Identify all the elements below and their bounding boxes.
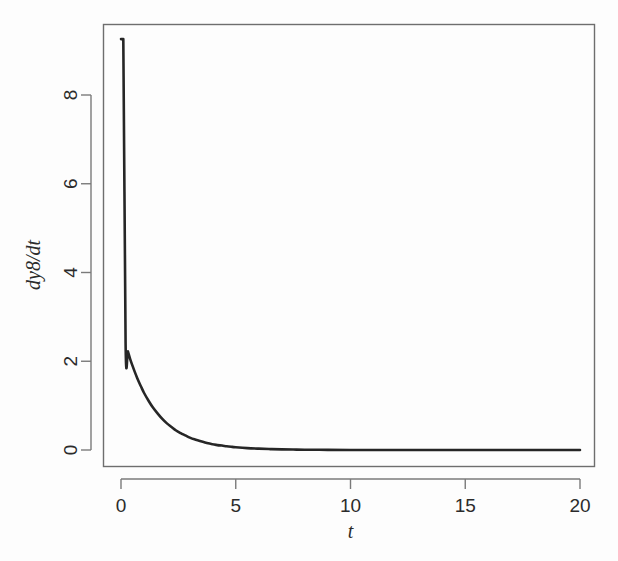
chart-figure: 0 5 10 15 20 0 2 4 6 8 t dy8/dt [0,0,618,561]
y-tick-label-6: 6 [60,178,81,189]
y-axis-title: dy8/dt [22,240,45,290]
y-tick-label-8: 8 [60,90,81,101]
y-tick-label-2: 2 [60,356,81,367]
chart-background [0,0,618,561]
x-tick-label-0: 0 [116,495,127,516]
plot-canvas: 0 5 10 15 20 0 2 4 6 8 t dy8/dt [0,0,618,561]
x-tick-label-15: 15 [455,495,476,516]
x-tick-label-20: 20 [569,495,590,516]
y-tick-label-4: 4 [60,267,81,278]
y-tick-label-0: 0 [60,445,81,456]
x-tick-label-10: 10 [340,495,361,516]
x-axis-title: t [348,520,354,542]
x-tick-label-5: 5 [230,495,241,516]
